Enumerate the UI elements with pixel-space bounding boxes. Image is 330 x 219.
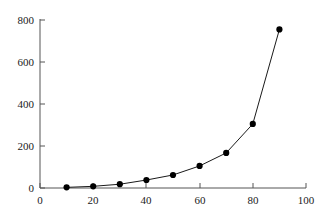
x-tick-label: 20 bbox=[88, 195, 99, 206]
data-point bbox=[90, 183, 96, 189]
data-point-markers bbox=[64, 26, 283, 190]
data-point bbox=[197, 163, 203, 169]
data-point bbox=[223, 150, 229, 156]
x-tick-label: 60 bbox=[195, 195, 206, 206]
data-point bbox=[170, 172, 176, 178]
y-tick-label: 200 bbox=[2, 141, 34, 152]
data-point bbox=[64, 184, 70, 190]
y-tick-label: 0 bbox=[2, 183, 34, 194]
x-tick-label: 0 bbox=[37, 195, 43, 206]
x-tick-label: 80 bbox=[248, 195, 259, 206]
y-tick-label: 600 bbox=[2, 57, 34, 68]
data-point bbox=[143, 177, 149, 183]
y-tick-label: 400 bbox=[2, 99, 34, 110]
y-axis-ticks bbox=[40, 20, 45, 188]
data-point bbox=[250, 121, 256, 127]
chart-figure: 800 600 400 200 0 0 20 40 60 80 100 bbox=[0, 0, 330, 219]
y-tick-label: 800 bbox=[2, 15, 34, 26]
data-line-series-1 bbox=[67, 29, 280, 187]
data-point bbox=[117, 181, 123, 187]
x-tick-label: 40 bbox=[141, 195, 152, 206]
line-chart-plot bbox=[0, 0, 330, 219]
x-tick-label: 100 bbox=[298, 195, 315, 206]
data-point bbox=[276, 26, 282, 32]
